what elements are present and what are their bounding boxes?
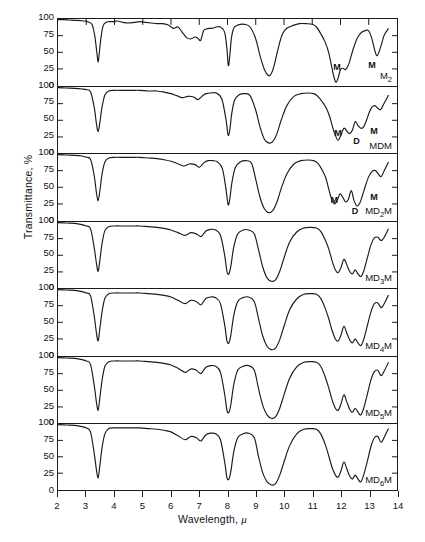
y-tick-label: 50 [43,46,54,56]
x-tick-label: 13 [364,500,375,511]
x-axis-tick [57,491,58,497]
spectrum-panel: 1007550250MMM2 [57,18,398,86]
x-axis: 234567891011121314 [57,491,398,513]
y-tick-label: 100 [38,147,54,157]
x-axis-unit: μ [241,513,247,525]
y-tick-label: 75 [43,29,54,39]
spectrum-plot [58,154,397,221]
x-axis-tick [199,491,200,497]
spectrum-curve [58,222,389,281]
x-tick-label: 10 [279,500,290,511]
spectrum-panel: 1007550250MDMMD2M [57,153,398,221]
y-tick-label: 75 [43,164,54,174]
x-tick-label: 11 [308,500,318,511]
y-tick-labels: 1007550250 [24,147,54,214]
x-axis-tick [228,491,229,497]
spectrum-curve [58,155,389,213]
peak-annotation: M [330,195,338,205]
peak-annotation: M [370,192,378,202]
panel-label: MD6M [365,474,392,488]
x-axis-tick [398,491,399,497]
x-axis-tick [142,491,143,497]
spectrum-curve [58,357,389,418]
y-tick-label: 100 [38,12,54,22]
y-tick-label: 50 [43,316,54,326]
panel-stack: 1007550250MMM21007550250MDMMDM1007550250… [57,18,398,491]
y-tick-label: 50 [43,181,54,191]
spectrum-plot [58,289,397,356]
peak-annotation: D [352,206,359,216]
y-tick-label: 50 [43,248,54,258]
peak-annotation: M [333,62,341,72]
x-tick-label: 5 [140,500,145,511]
y-tick-labels: 1007550250 [24,80,54,147]
x-axis-tick [171,491,172,497]
x-tick-label: 8 [225,500,230,511]
panel-label: MD4M [365,340,392,354]
x-axis-tick [370,491,371,497]
x-axis-tick [85,491,86,497]
y-tick-label: 25 [43,401,54,411]
x-tick-label: 6 [168,500,173,511]
y-tick-label: 25 [43,468,54,478]
y-tick-label: 50 [43,113,54,123]
y-tick-label: 75 [43,232,54,242]
x-axis-tick [341,491,342,497]
y-tick-label: 75 [43,299,54,309]
y-tick-label: 75 [43,96,54,106]
x-tick-label: 2 [54,500,59,511]
y-tick-label: 100 [38,215,54,225]
x-axis-tick [114,491,115,497]
spectrum-curve [58,290,389,350]
spectrum-plot [58,19,397,86]
y-tick-label: 0 [49,485,54,495]
spectrum-plot [58,357,397,424]
x-axis-tick [284,491,285,497]
spectra-figure: Transmittance, % 1007550250MMM2100755025… [0,0,425,542]
y-tick-label: 75 [43,434,54,444]
spectrum-plot [58,222,397,289]
spectrum-curve [58,425,389,485]
x-tick-label: 12 [336,500,347,511]
y-tick-labels: 1007550250 [24,417,54,483]
x-tick-label: 14 [393,500,404,511]
x-axis-tick [313,491,314,497]
spectrum-plot [58,87,397,154]
spectrum-plot [58,424,397,490]
y-tick-label: 25 [43,265,54,275]
spectrum-panel: 1007550250MD5M [57,356,398,424]
peak-annotation: M [370,126,378,136]
y-tick-label: 100 [38,350,54,360]
y-tick-label: 50 [43,451,54,461]
y-tick-labels: 1007550250 [24,282,54,349]
y-tick-label: 25 [43,333,54,343]
spectrum-panel: 1007550250MD4M [57,288,398,356]
spectrum-panel: 1007550250MD6M [57,423,398,491]
x-axis-tick [256,491,257,497]
y-tick-label: 25 [43,198,54,208]
panel-label: MDM [369,140,392,151]
y-tick-label: 100 [38,417,54,427]
x-axis-title: Wavelength, μ [0,513,425,525]
x-axis-title-text: Wavelength, [178,513,241,525]
panel-label: MD2M [365,205,392,219]
panel-label: MD3M [365,272,392,286]
y-tick-labels: 1007550250 [24,215,54,282]
y-tick-label: 25 [43,63,54,73]
x-tick-label: 9 [253,500,258,511]
peak-annotation: M [334,128,342,138]
y-tick-label: 50 [43,384,54,394]
spectrum-panel: 1007550250MD3M [57,221,398,289]
peak-annotation: D [353,136,360,146]
x-tick-label: 4 [111,500,116,511]
y-tick-labels: 1007550250 [24,350,54,417]
panel-label: MD5M [365,407,392,421]
spectrum-curve [58,20,389,83]
y-tick-labels: 1007550250 [24,12,54,79]
y-tick-label: 100 [38,80,54,90]
panel-label: M2 [380,70,392,84]
peak-annotation: M [368,60,376,70]
y-tick-label: 75 [43,367,54,377]
x-tick-label: 7 [196,500,201,511]
y-tick-label: 100 [38,282,54,292]
